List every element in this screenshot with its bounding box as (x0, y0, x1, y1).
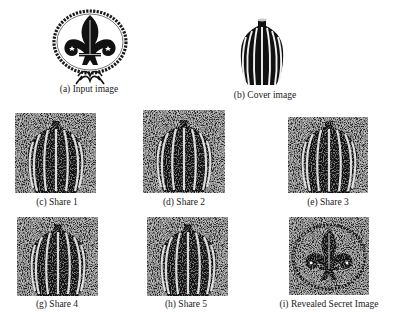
share-2-image (143, 110, 225, 193)
caption-h: (h) Share 5 (165, 299, 207, 309)
share-1-image (15, 113, 96, 193)
revealed-secret-image (289, 217, 369, 295)
caption-c: (c) Share 1 (36, 197, 78, 207)
share-5-image (147, 217, 228, 296)
caption-d: (d) Share 2 (163, 197, 205, 207)
caption-e: (e) Share 3 (307, 197, 349, 207)
caption-a: (a) Input image (60, 84, 119, 94)
share-3-image (288, 117, 368, 193)
caption-g: (g) Share 4 (36, 299, 78, 309)
share-4-image (17, 217, 98, 296)
input-image-emblem (50, 6, 130, 86)
caption-b: (b) Cover image (234, 90, 296, 100)
cover-image-vase (240, 18, 284, 86)
caption-i: (i) Revealed Secret Image (280, 299, 379, 309)
